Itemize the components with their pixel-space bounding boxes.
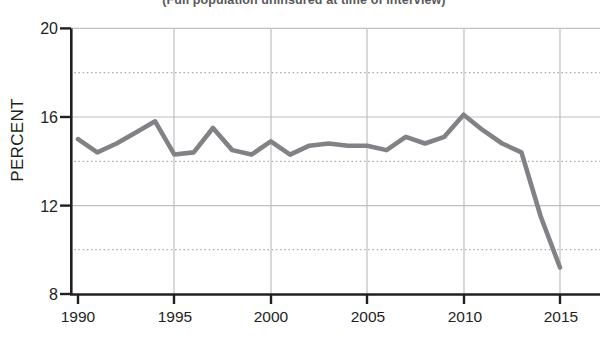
- uninsured-rate-line-chart: (Full population uninsured at time of in…: [0, 0, 608, 339]
- y-axis-ticks: [60, 28, 71, 294]
- plot-area: [0, 0, 608, 339]
- major-gridlines: [70, 28, 600, 205]
- vertical-gridlines: [174, 28, 560, 294]
- minor-gridlines: [70, 73, 600, 250]
- data-line-uninsured: [78, 115, 560, 268]
